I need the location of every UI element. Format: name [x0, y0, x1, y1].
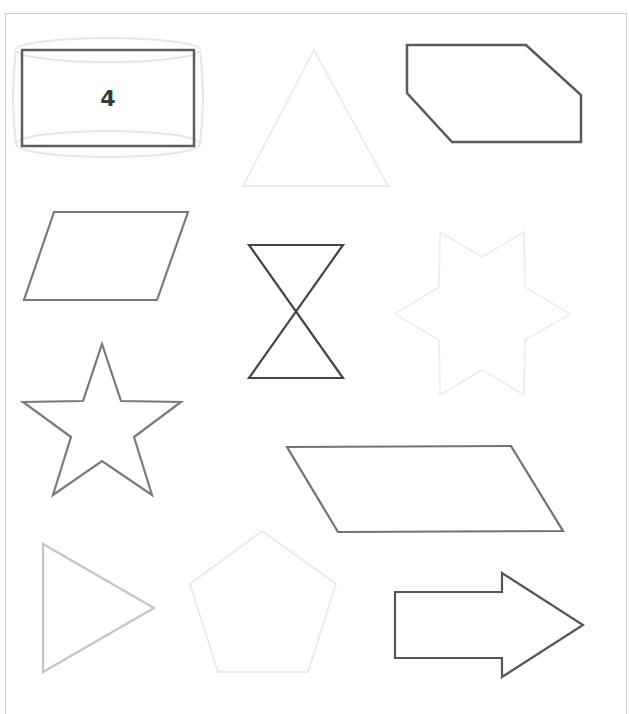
- pentagon-shape[interactable]: [190, 531, 336, 672]
- triangle-right-shape[interactable]: [43, 544, 154, 672]
- five-point-star-shape[interactable]: [23, 344, 181, 495]
- parallelogram-wide-shape[interactable]: [287, 446, 563, 532]
- six-point-star-shape[interactable]: [395, 232, 570, 395]
- parallelogram-left-shape[interactable]: [24, 212, 188, 300]
- hexagon-shape[interactable]: [407, 45, 581, 142]
- hourglass-shape[interactable]: [249, 245, 343, 378]
- triangle-up-shape[interactable]: [243, 50, 388, 186]
- arrow-right-shape[interactable]: [395, 573, 583, 677]
- rectangle-label: 4: [100, 86, 115, 111]
